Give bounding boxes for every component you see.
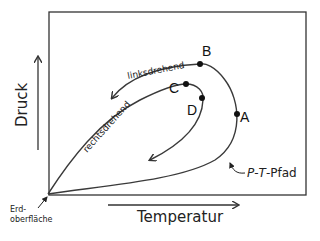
point-c-label: C	[169, 80, 179, 96]
origin-label-line1: Erd-	[10, 205, 26, 214]
origin-label-line2: oberfläche	[10, 215, 53, 224]
pt-path-outer	[48, 64, 237, 194]
point-d-label: D	[187, 102, 197, 118]
x-axis-label: Temperatur	[136, 208, 224, 226]
pt-path-diagram: Druck Temperatur Erd- oberfläche B A C D…	[0, 0, 320, 241]
rechtsdrehend-label: rechtsdrehend	[81, 99, 132, 154]
point-c-marker	[183, 81, 189, 87]
origin-pointer-arrow	[38, 197, 47, 208]
pt-label-pointer	[230, 163, 245, 173]
point-b-label: B	[202, 43, 211, 59]
point-a-label: A	[240, 109, 250, 125]
linksdrehend-label: linksdrehend	[126, 60, 185, 81]
pt-path-label: P-T-Pfad	[247, 166, 297, 180]
point-b-marker	[197, 61, 203, 67]
point-d-marker	[199, 95, 205, 101]
y-axis-label: Druck	[13, 83, 31, 127]
